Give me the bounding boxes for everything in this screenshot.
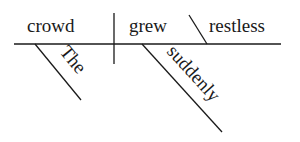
subject-word: crowd — [27, 15, 75, 36]
sentence-diagram: crowd grew restless The suddenly — [0, 0, 300, 142]
verb-word: grew — [129, 15, 167, 36]
predicate-adjective-word: restless — [209, 15, 265, 36]
predicate-slash — [189, 15, 207, 44]
verb-modifier-word: suddenly — [163, 41, 225, 106]
subject-modifier-word: The — [56, 41, 91, 77]
